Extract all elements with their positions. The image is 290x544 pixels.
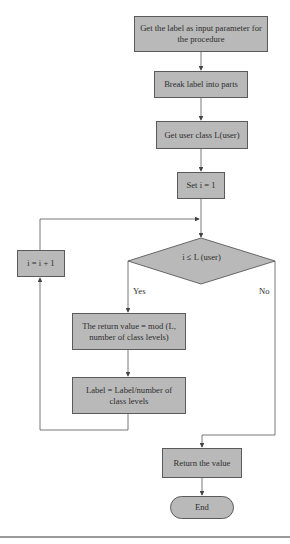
edge-label-no: No [259,286,270,296]
node-label-divide: Label = Label/number of class levels [72,377,186,414]
decision-label: i ≤ L (user) [128,252,275,262]
node-increment: i = i + 1 [17,250,65,277]
edge-label-yes: Yes [133,286,146,296]
caption-divider [0,536,290,538]
node-start: Get the label as input parameter for the… [134,16,268,52]
node-set-i: Set i = 1 [177,172,225,199]
node-end: End [170,496,234,519]
node-break-label: Break label into parts [154,71,248,98]
node-return-mod: The return value = mod (L, number of cla… [72,313,186,350]
node-get-user-class: Get user class L(user) [156,121,248,149]
node-return-value: Return the value [162,448,242,478]
flowchart: Get the label as input parameter for the… [0,0,290,544]
